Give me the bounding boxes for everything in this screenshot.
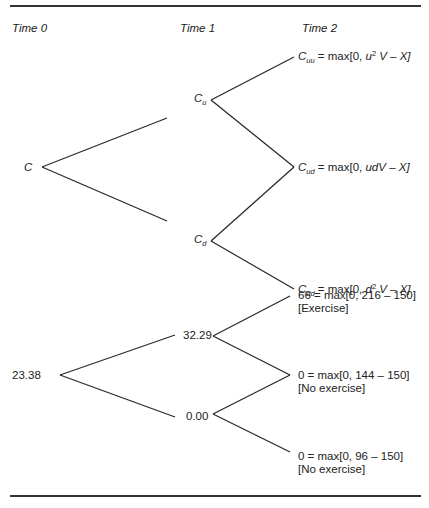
branch-root-to-up: [60, 335, 175, 375]
node-cu: Cu: [194, 92, 206, 106]
branch-root-to-down: [60, 375, 175, 417]
header-time-1: Time 1: [180, 22, 215, 35]
node-ud-payoff: 0 = max[0, 144 – 150] [No exercise]: [298, 369, 410, 395]
branch-c-to-cd: [42, 167, 167, 221]
node-cd: Cd: [194, 233, 206, 247]
node-down-value: 0.00: [186, 410, 208, 423]
branch-c-to-cu: [42, 118, 167, 167]
header-time-0: Time 0: [12, 22, 47, 35]
tree-branches: [0, 0, 429, 508]
branch-cd-to-cdd-real: [211, 241, 294, 289]
branch-down-to-dd: [213, 414, 290, 452]
node-root-value: 23.38: [12, 369, 41, 382]
branch-cd-to-cud: [211, 167, 294, 241]
branch-cu-to-cud: [211, 100, 294, 167]
node-up-value: 32.29: [183, 329, 212, 342]
branch-down-to-ud: [213, 375, 290, 414]
node-dd-payoff: 0 = max[0, 96 – 150] [No exercise]: [298, 450, 403, 476]
branch-up-to-uu: [213, 296, 290, 336]
node-cuu: Cuu = max[0, u2 V – X]: [298, 50, 411, 64]
branch-cu-to-cuu: [211, 57, 294, 100]
header-time-2: Time 2: [302, 22, 337, 35]
node-c: C: [24, 161, 32, 174]
branch-up-to-ud: [213, 336, 290, 375]
node-cud: Cud = max[0, udV – X]: [298, 161, 410, 175]
node-uu-payoff: 66 = max[0, 216 – 150] [Exercise]: [298, 289, 416, 315]
